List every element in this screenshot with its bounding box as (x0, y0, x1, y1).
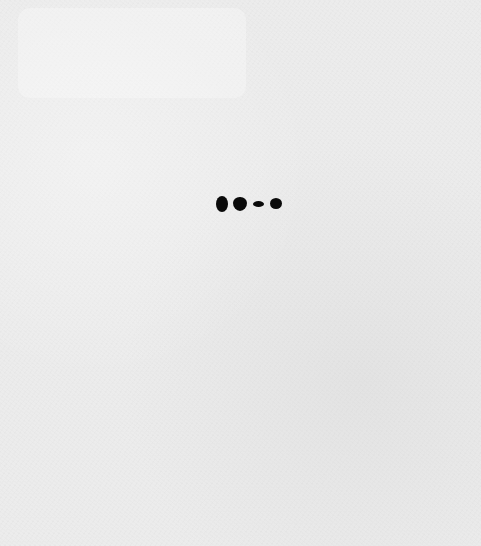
loading-indicator (216, 196, 284, 213)
loading-dot-icon (216, 196, 228, 212)
loading-dot-icon (270, 198, 282, 209)
loading-dot-icon (233, 197, 247, 211)
loading-dot-icon (253, 201, 264, 207)
placeholder-panel (18, 8, 246, 98)
